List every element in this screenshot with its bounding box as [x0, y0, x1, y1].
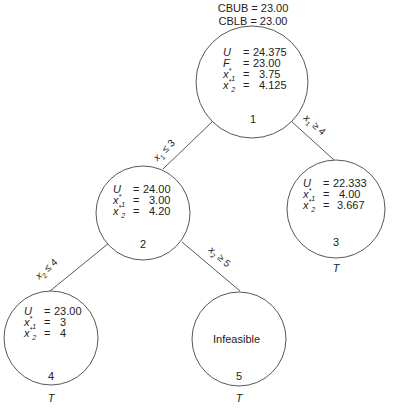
value: 4.125	[253, 80, 287, 91]
node-1-row-x2: x*2 = 4.125	[223, 80, 287, 91]
node-4-values: U = 23.00 x*1 = 3 x*2 = 4	[24, 306, 82, 339]
cblb-label: CBLB = 23.00	[212, 15, 294, 28]
bounds-header: CBUB = 23.00 CBLB = 23.00	[212, 2, 294, 28]
node-4-terminal-mark: T	[41, 392, 61, 404]
node-4-row-u: U = 23.00	[24, 306, 82, 317]
var-label: x*2	[223, 80, 243, 91]
node-3-values: U = 22.333 x*1 = 4.00 x*2 = 3.667	[303, 178, 367, 211]
node-1-values: U = 24.375 F = 23.00 x*1 = 3.75 x*2 = 4.…	[223, 47, 287, 91]
node-3-row-x2: x*2 = 3.667	[303, 200, 367, 211]
node-1-number: 1	[243, 113, 263, 125]
cbub-label: CBUB = 23.00	[212, 2, 294, 15]
node-2-row-x2: x*2 = 4.20	[113, 206, 171, 217]
node-4-number: 4	[41, 370, 61, 382]
node-4-row-x1: x*1 = 3	[24, 317, 82, 328]
node-2-number: 2	[133, 238, 153, 250]
node-3-terminal-mark: T	[326, 262, 346, 274]
node-5-number: 5	[229, 370, 249, 382]
node-4-row-x2: x*2 = 4	[24, 328, 82, 339]
node-3-number: 3	[326, 236, 346, 248]
node-5-terminal-mark: T	[229, 392, 249, 404]
edge-2-4	[50, 243, 109, 291]
node-2-values: U = 24.00 x*1 = 3.00 x*2 = 4.20	[113, 184, 171, 217]
node-5-infeasible-label: Infeasible	[213, 333, 260, 345]
